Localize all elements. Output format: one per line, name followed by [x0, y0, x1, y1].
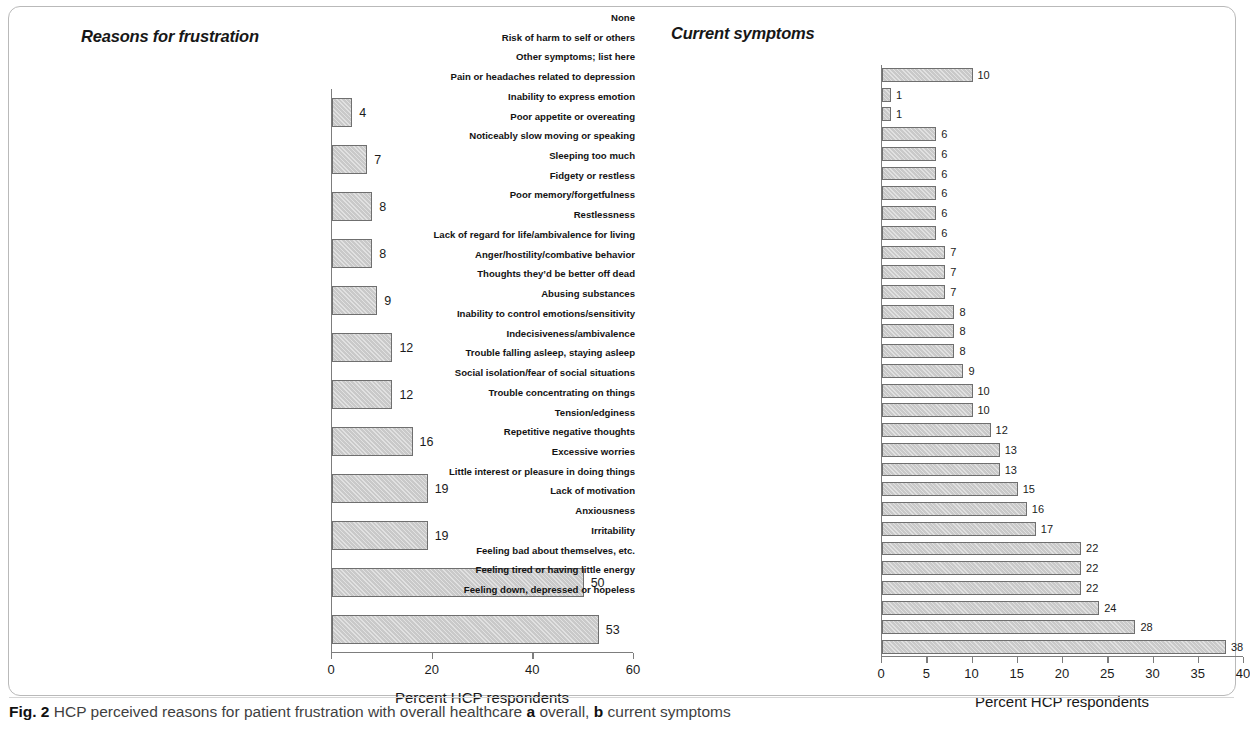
x-axis-tick-label: 5 [923, 666, 930, 681]
bar [882, 364, 963, 378]
figure-sublabel-b: b [594, 703, 603, 720]
bar [332, 145, 367, 174]
bar [882, 443, 1000, 457]
bar-value-label: 16 [1032, 503, 1044, 515]
bar-row [882, 186, 1243, 200]
category-label: Feeling tired or having little energy [407, 564, 635, 575]
bar [882, 206, 936, 220]
x-axis-tick [331, 653, 332, 659]
category-label: None [407, 11, 635, 22]
bar [882, 265, 945, 279]
bar [882, 107, 891, 121]
x-axis-tick-label: 20 [1055, 666, 1069, 681]
category-label: Repetitive negative thoughts [407, 426, 635, 437]
bar-value-label: 9 [384, 294, 391, 308]
bar-row [882, 463, 1243, 477]
bar [882, 127, 936, 141]
category-label: Risk of harm to self or others [407, 31, 635, 42]
bar-row [882, 522, 1243, 536]
chart-panel-current-symptoms: Current symptoms 10116666667778889101012… [641, 7, 1237, 697]
bar-value-label: 24 [1104, 602, 1116, 614]
x-axis-tick [972, 657, 973, 663]
x-axis-tick-label: 40 [1236, 666, 1250, 681]
bar-row [882, 601, 1243, 615]
bar-row [882, 88, 1243, 102]
figure-caption-text: HCP perceived reasons for patient frustr… [54, 703, 522, 720]
x-axis-tick-label: 0 [327, 662, 334, 677]
bar [882, 542, 1081, 556]
bar-value-label: 6 [941, 168, 947, 180]
category-label: Tension/edginess [407, 406, 635, 417]
bar [882, 601, 1099, 615]
category-label: Other symptoms; list here [407, 51, 635, 62]
bar-value-label: 22 [1086, 582, 1098, 594]
bar-row [882, 206, 1243, 220]
category-label: Inability to control emotions/sensitivit… [407, 307, 635, 318]
bar [882, 246, 945, 260]
figure-sublabel-a: a [527, 703, 536, 720]
bar-row [882, 542, 1243, 556]
bar [882, 226, 936, 240]
bar-value-label: 1 [896, 89, 902, 101]
bar-row [882, 423, 1243, 437]
x-axis-tick-label: 40 [525, 662, 539, 677]
bar-row [882, 581, 1243, 595]
bar-value-label: 8 [379, 247, 386, 261]
category-label: Pain or headaches related to depression [407, 71, 635, 82]
bar [882, 403, 973, 417]
figure-caption: Fig. 2 HCP perceived reasons for patient… [9, 703, 1234, 721]
bar-row [882, 226, 1243, 240]
bar-value-label: 4 [359, 106, 366, 120]
bar-value-label: 28 [1140, 621, 1152, 633]
category-label: Trouble concentrating on things [407, 386, 635, 397]
bar-value-label: 6 [941, 187, 947, 199]
x-axis-tick [1198, 657, 1199, 663]
bar-value-label: 7 [950, 246, 956, 258]
figure-frame: Reasons for frustration 4788912121619195… [8, 6, 1236, 696]
x-axis-tick [881, 657, 882, 663]
bar [332, 380, 392, 409]
bar-value-label: 13 [1005, 444, 1017, 456]
chart-title-reasons-for-frustration: Reasons for frustration [81, 27, 259, 46]
bar-row [882, 265, 1243, 279]
bar-value-label: 17 [1041, 523, 1053, 535]
bar-row [882, 107, 1243, 121]
figure-sublabel-b-text: current symptoms [608, 703, 731, 720]
x-axis-tick-label: 60 [626, 662, 640, 677]
bar [882, 88, 891, 102]
category-label: Feeling down, depressed or hopeless [407, 584, 635, 595]
plot-area-right: 1011666666777888910101213131516172222222… [881, 65, 1243, 657]
category-label: Fidgety or restless [407, 169, 635, 180]
category-label: Abusing substances [407, 288, 635, 299]
bar-row [882, 147, 1243, 161]
bar-value-label: 13 [1005, 464, 1017, 476]
bar-value-label: 8 [379, 200, 386, 214]
bar-value-label: 22 [1086, 542, 1098, 554]
bar-row [332, 615, 633, 644]
bar-value-label: 7 [950, 266, 956, 278]
category-label: Anger/hostility/combative behavior [407, 248, 635, 259]
bar-value-label: 8 [959, 325, 965, 337]
bar-row [882, 443, 1243, 457]
x-axis-tick-label: 20 [424, 662, 438, 677]
category-label: Social isolation/fear of social situatio… [407, 367, 635, 378]
bar-value-label: 6 [941, 148, 947, 160]
x-axis-tick [1153, 657, 1154, 663]
bar-value-label: 7 [950, 286, 956, 298]
bar [882, 344, 954, 358]
bar [882, 522, 1036, 536]
bar-row [882, 640, 1243, 654]
bar-row [882, 364, 1243, 378]
x-axis-tick [1062, 657, 1063, 663]
bar-value-label: 22 [1086, 562, 1098, 574]
bar-row [882, 127, 1243, 141]
bar-value-label: 15 [1023, 483, 1035, 495]
bar [332, 615, 599, 644]
category-label: Inability to express emotion [407, 90, 635, 101]
bar-rows-right [882, 65, 1243, 656]
bar [332, 286, 377, 315]
bar-row [882, 502, 1243, 516]
bar [332, 427, 413, 456]
category-label: Trouble falling asleep, staying asleep [407, 347, 635, 358]
bar-value-label: 6 [941, 207, 947, 219]
